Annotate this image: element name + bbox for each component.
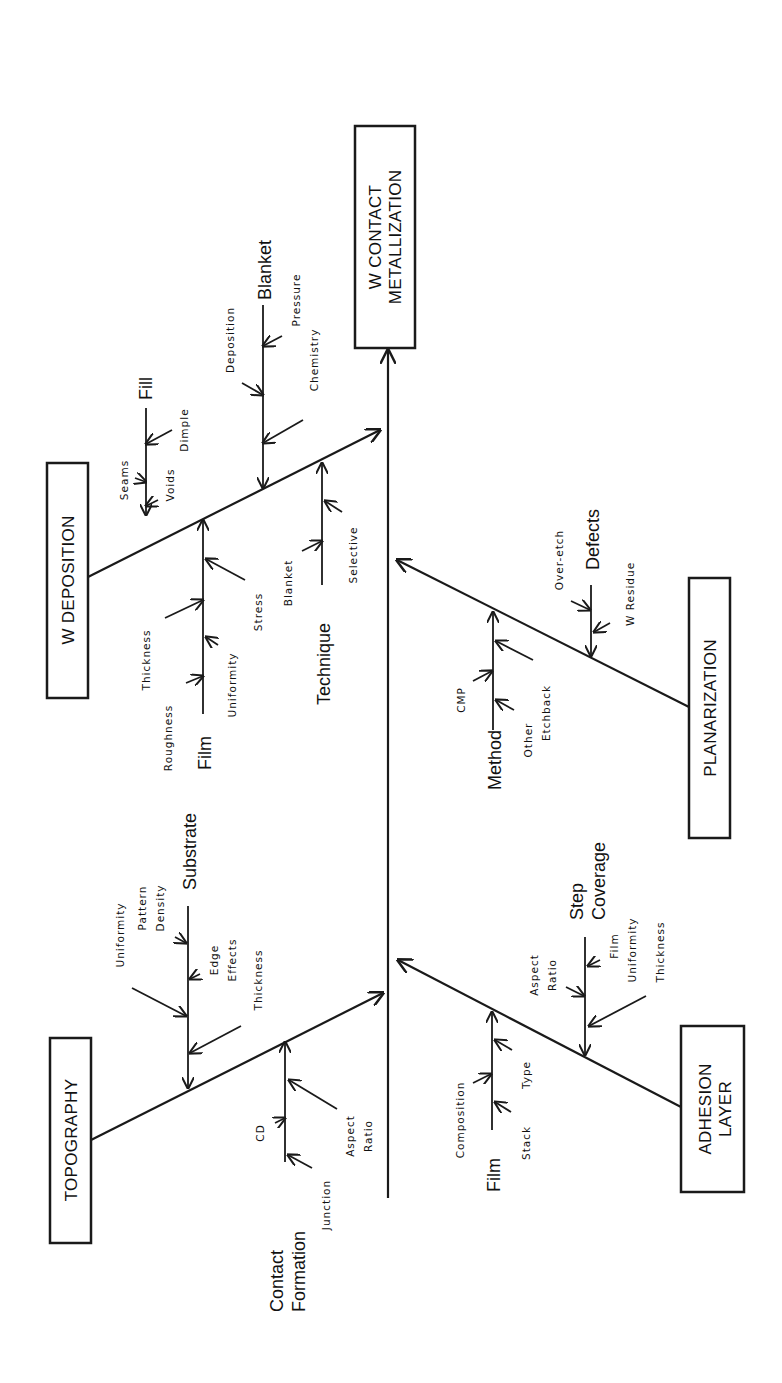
cause-label: CMP — [455, 687, 467, 713]
cause-label: Chemistry — [308, 329, 320, 392]
cause-label: Pattern — [136, 886, 148, 931]
branch-label: Technique — [314, 623, 334, 705]
branch-label: Step — [567, 883, 587, 920]
branch-label: Method — [485, 730, 505, 790]
branch-fill: Fill Seams Voids Dimple — [118, 377, 190, 515]
cause-label: Selective — [347, 527, 359, 584]
branch-substrate: Substrate Uniformity Pattern Density Edg… — [114, 813, 264, 1088]
cause-label: CD — [254, 1124, 266, 1141]
category-label-line2: LAYER — [716, 1081, 735, 1137]
cause-label: Thickness — [140, 630, 152, 692]
cause-label: Dimple — [178, 408, 190, 451]
branch-label: Defects — [583, 509, 603, 570]
cause-label: Density — [154, 885, 166, 932]
cause-label: Ratio — [546, 959, 558, 991]
cause-label: Seams — [118, 460, 130, 500]
cause-label: Film — [608, 933, 620, 958]
cause-label: Deposition — [224, 307, 236, 373]
cause-label: Junction — [320, 1180, 332, 1231]
cause-label: Stress — [252, 593, 264, 631]
branch-step-coverage: Step Coverage Aspect Ratio Film Uniformi… — [528, 842, 666, 1055]
category-label-line1: ADHESION — [696, 1063, 715, 1154]
category-w-deposition: W DEPOSITION Fill Seams Voids Dimple Bla… — [47, 240, 380, 771]
branch-label: Formation — [289, 1231, 309, 1312]
branch-technique: Technique Blanket Selective — [282, 463, 359, 705]
cause-label: Uniformity — [626, 918, 638, 983]
branch-label: Film — [195, 736, 215, 770]
cause-label: Thickness — [252, 950, 264, 1012]
cause-label: Etchback — [540, 685, 552, 741]
branch-blanket: Blanket Deposition Pressure Chemistry — [224, 240, 320, 488]
category-label: TOPOGRAPHY — [62, 1079, 81, 1202]
cause-label: Uniformity — [226, 653, 238, 718]
category-planarization: PLANARIZATION Defects Over-etch W Residu… — [397, 509, 730, 838]
cause-label: Composition — [454, 1082, 466, 1159]
effect-label-line1: W CONTACT — [366, 185, 385, 289]
cause-label: Blanket — [282, 560, 294, 607]
cause-label: Aspect — [528, 954, 540, 996]
cause-label: Roughness — [162, 705, 174, 771]
effect-box: W CONTACT METALLIZATION — [355, 126, 415, 348]
branch-label: Film — [484, 1158, 504, 1192]
fishbone-diagram: W CONTACT METALLIZATION W DEPOSITION Fil… — [0, 0, 782, 1383]
cause-label: Over-etch — [553, 530, 565, 590]
branch-defects: Defects Over-etch W Residue — [553, 509, 636, 656]
category-adhesion-layer: ADHESION LAYER Step Coverage Aspect Rati… — [398, 842, 744, 1192]
branch-label: Coverage — [589, 842, 609, 920]
cause-label: Ratio — [362, 1120, 374, 1152]
cause-label: Aspect — [344, 1115, 356, 1157]
cause-label: Effects — [226, 939, 238, 982]
branch-method: Method CMP Other Etchback — [455, 612, 552, 790]
cause-label: Edge — [208, 945, 220, 975]
cause-label: Other — [522, 723, 534, 758]
cause-label: Pressure — [290, 274, 302, 327]
branch-contact-formation: Contact Formation CD Junction Aspect Rat… — [254, 1042, 374, 1312]
category-topography: TOPOGRAPHY Substrate Uniformity Pattern … — [50, 813, 383, 1312]
cause-label: Thickness — [654, 922, 666, 984]
branch-film: Film Thickness Roughness Uniformity Stre… — [140, 520, 264, 771]
cause-label: Type — [520, 1061, 532, 1090]
effect-label-line2: METALLIZATION — [386, 170, 405, 305]
cause-label: Stack — [520, 1126, 532, 1160]
branch-adhesion-film: Film Composition Stack Type — [454, 1012, 532, 1192]
cause-label: Voids — [164, 469, 176, 502]
cause-label: Uniformity — [114, 903, 126, 968]
branch-label: Substrate — [180, 813, 200, 890]
branch-label: Blanket — [255, 240, 275, 300]
branch-label: Fill — [136, 377, 156, 400]
branch-label: Contact — [267, 1250, 287, 1312]
category-label: PLANARIZATION — [701, 639, 720, 777]
category-label: W DEPOSITION — [59, 515, 78, 644]
cause-label: W Residue — [624, 562, 636, 626]
